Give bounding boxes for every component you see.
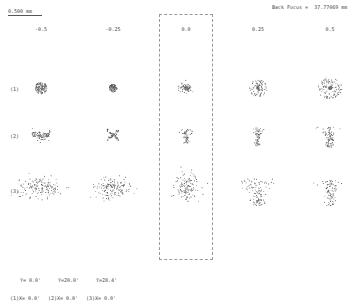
legend-field-3: Y=28.4' (3)X= 0.0' (86, 265, 117, 305)
legend-field-1-x: (1)X= 0.0' (10, 295, 41, 301)
legend-field-2-x: (2)X= 0.0' (48, 295, 79, 301)
legend-field-3-y: Y=28.4' (86, 277, 117, 283)
legend-field-1-y: Y= 0.0' (10, 277, 41, 283)
legend-field-3-x: (3)X= 0.0' (86, 295, 117, 301)
legend-field-2-y: Y=20.0' (48, 277, 79, 283)
legend-field-1: Y= 0.0' (1)X= 0.0' (10, 265, 41, 305)
legend-field-2: Y=20.0' (2)X= 0.0' (48, 265, 79, 305)
